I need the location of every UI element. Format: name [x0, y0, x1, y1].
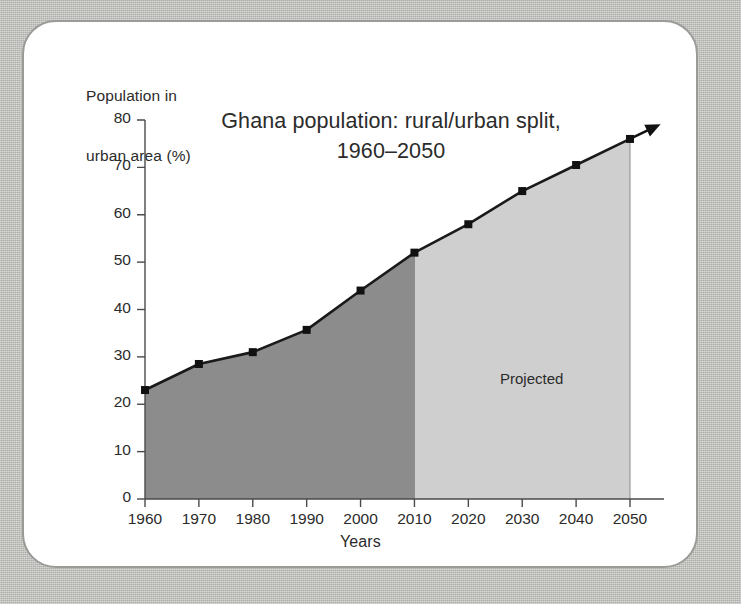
- x-tick-label: 2020: [438, 510, 498, 528]
- y-tick-label: 0: [24, 488, 131, 506]
- trend-arrow-icon: [630, 124, 661, 139]
- y-tick-label: 20: [24, 393, 131, 411]
- x-tick-label: 1980: [223, 510, 283, 528]
- y-tick-label: 40: [24, 299, 131, 317]
- y-tick-label: 70: [24, 156, 131, 174]
- y-tick-label: 10: [24, 441, 131, 459]
- y-tick-label: 80: [24, 109, 131, 127]
- projected-annotation: Projected: [500, 370, 563, 387]
- x-tick-label: 2050: [600, 510, 660, 528]
- x-tick-label: 2030: [492, 510, 552, 528]
- y-tick-label: 60: [24, 204, 131, 222]
- y-tick-label: 30: [24, 346, 131, 364]
- area-fill-historical: [145, 253, 414, 499]
- x-tick-label: 2000: [331, 510, 391, 528]
- x-tick-label: 1990: [277, 510, 337, 528]
- x-axis-label: Years: [340, 532, 381, 552]
- x-tick-label: 1960: [115, 510, 175, 528]
- x-tick-label: 2010: [384, 510, 444, 528]
- chart-plot-area: [24, 22, 698, 568]
- chart-card: Population in urban area (%) Ghana popul…: [22, 20, 698, 568]
- x-tick-label: 1970: [169, 510, 229, 528]
- x-tick-label: 2040: [546, 510, 606, 528]
- y-tick-label: 50: [24, 251, 131, 269]
